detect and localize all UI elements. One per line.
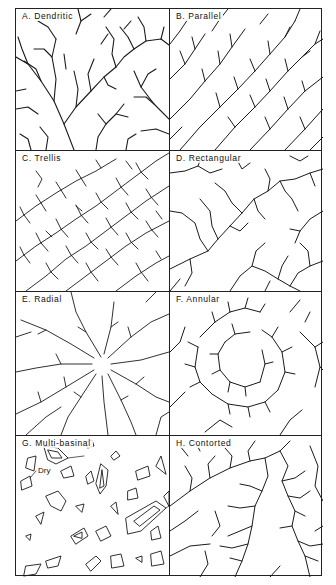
panel-parallel: B. Parallel [170, 9, 323, 150]
trellis-drainage-drawing [16, 151, 169, 291]
panel-rectangular: D. Rectangular [170, 151, 323, 291]
panel-trellis: C. Trellis [16, 151, 169, 291]
panel-radial: E. Radial [16, 292, 169, 435]
panel-contorted: H. Contorted [170, 436, 323, 577]
dendritic-drainage-drawing [16, 9, 169, 150]
panel-label-dendritic: A. Dendritic [20, 11, 75, 21]
annular-drainage-drawing [170, 292, 323, 435]
panel-label-contorted: H. Contorted [174, 438, 233, 448]
panel-label-annular: F. Annular [174, 294, 222, 304]
panel-label-radial: E. Radial [20, 294, 64, 304]
radial-drainage-drawing [16, 292, 169, 435]
panel-label-trellis: C. Trellis [20, 153, 63, 163]
panel-label-parallel: B. Parallel [174, 11, 223, 21]
panel-label-multi-basinal: G. Multi-basinal [20, 438, 93, 448]
dry-annotation: Dry [38, 466, 50, 475]
multi-basinal-drainage-drawing [16, 436, 169, 577]
panel-dendritic: A. Dendritic [16, 9, 169, 150]
drainage-patterns-figure: A. Dendritic [15, 8, 322, 576]
contorted-drainage-drawing [170, 436, 323, 577]
rectangular-drainage-drawing [170, 151, 323, 291]
panel-label-rectangular: D. Rectangular [174, 153, 243, 163]
panel-multi-basinal: G. Multi-basinal Dry [16, 436, 169, 577]
parallel-drainage-drawing [170, 9, 323, 150]
panel-annular: F. Annular [170, 292, 323, 435]
